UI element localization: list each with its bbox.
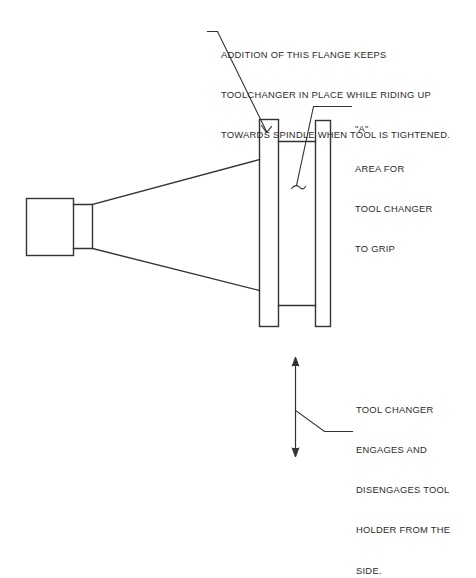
grip-note-line-1: "A"	[355, 122, 433, 135]
grip-note-line-4: TO GRIP	[355, 242, 433, 255]
grip-note-line-2: AREA FOR	[355, 162, 433, 175]
grip-note-text: "A" AREA FOR TOOL CHANGER TO GRIP	[355, 95, 433, 269]
side-note-line-2: ENGAGES AND	[356, 443, 450, 456]
side-note-leader	[296, 411, 353, 432]
retention-neck	[74, 205, 93, 249]
side-note-text: TOOL CHANGER ENGAGES AND DISENGAGES TOOL…	[356, 376, 450, 578]
grip-note-arrowhead	[292, 186, 306, 189]
flange-note-line-1: ADDITION OF THIS FLANGE KEEPS	[221, 48, 450, 61]
taper-lower-edge	[93, 249, 260, 291]
pull-stud-block	[27, 199, 74, 256]
vertical-motion-arrow-head-up	[292, 357, 299, 366]
vertical-motion-arrow-head-down	[292, 448, 299, 457]
side-note-line-5: SIDE.	[356, 564, 450, 577]
taper-upper-edge	[93, 160, 260, 205]
side-note-line-4: HOLDER FROM THE	[356, 523, 450, 536]
grip-note-line-3: TOOL CHANGER	[355, 202, 433, 215]
side-note-line-1: TOOL CHANGER	[356, 403, 450, 416]
side-note-line-3: DISENGAGES TOOL	[356, 483, 450, 496]
